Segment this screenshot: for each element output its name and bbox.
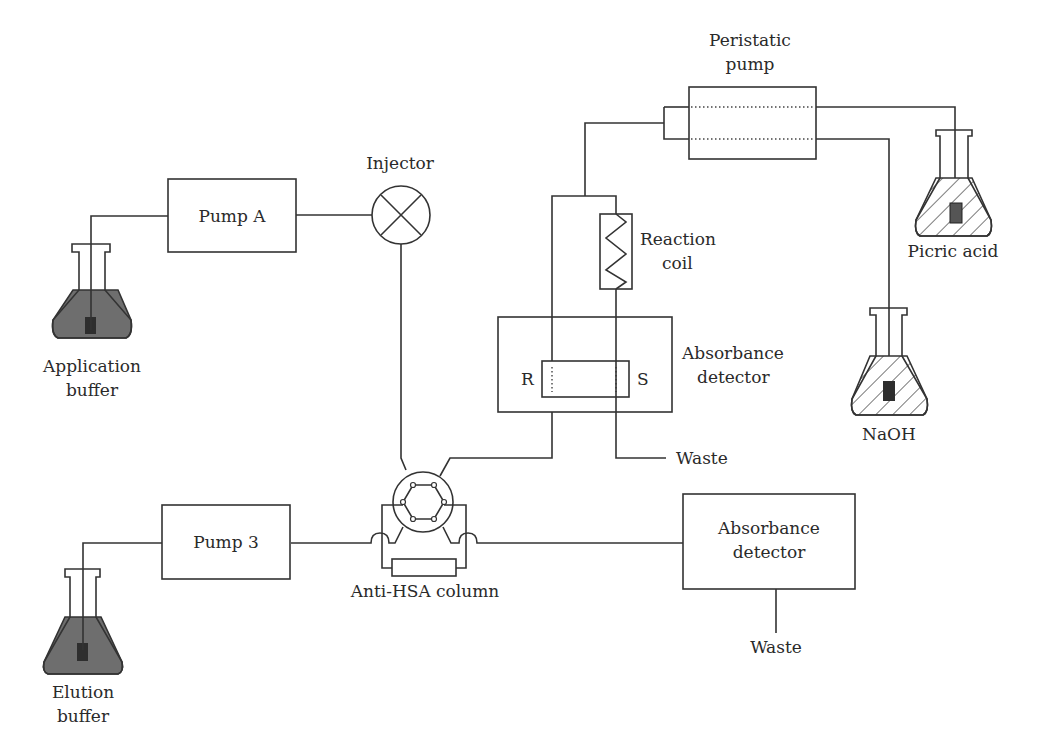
absorbance-detector-1-label-2: detector bbox=[697, 367, 770, 387]
naoh-label: NaOH bbox=[862, 424, 916, 444]
tube-injector-valve bbox=[401, 244, 406, 470]
application-buffer-label: Application bbox=[42, 356, 141, 376]
picric-acid-flask bbox=[916, 130, 992, 236]
absorbance-detector-2-label: Absorbance bbox=[717, 518, 820, 538]
picric-acid-label: Picric acid bbox=[908, 241, 999, 261]
stir-bar-icon bbox=[883, 381, 895, 401]
application-buffer-flask bbox=[53, 244, 132, 338]
injector-valve-icon bbox=[372, 186, 430, 244]
application-buffer-label-2: buffer bbox=[66, 380, 119, 400]
anti-hsa-column bbox=[392, 559, 456, 576]
flow-diagram: Application buffer Pump A Injector Anti-… bbox=[0, 0, 1039, 754]
sample-cell-label: S bbox=[637, 369, 649, 389]
tube-split-manifold bbox=[585, 123, 664, 196]
tube-pump-naoh bbox=[816, 139, 889, 392]
reaction-coil-icon bbox=[600, 214, 632, 289]
peristaltic-pump-label: Peristatic bbox=[709, 30, 791, 50]
elution-buffer-label: Elution bbox=[52, 682, 114, 702]
waste-label-1: Waste bbox=[676, 448, 728, 468]
reaction-coil-label-2: coil bbox=[662, 253, 693, 273]
peristaltic-pump-label-2: pump bbox=[726, 54, 775, 74]
injector-label: Injector bbox=[366, 153, 435, 173]
tube-manifold-bottom bbox=[664, 107, 689, 139]
absorbance-detector-2-label-2: detector bbox=[733, 542, 806, 562]
six-port-valve-icon bbox=[393, 472, 453, 532]
tube-valve-detector2 bbox=[443, 527, 683, 543]
anti-hsa-column-label: Anti-HSA column bbox=[350, 581, 500, 601]
reaction-coil-label: Reaction bbox=[640, 229, 716, 249]
elution-buffer-label-2: buffer bbox=[57, 706, 110, 726]
pump-a-label: Pump A bbox=[198, 206, 266, 226]
pump-3-label: Pump 3 bbox=[193, 532, 259, 552]
tube-pump3-valve bbox=[291, 527, 403, 543]
peristaltic-pump-box bbox=[689, 87, 816, 159]
stir-bar-icon bbox=[950, 203, 962, 223]
absorbance-detector-1-label: Absorbance bbox=[681, 343, 784, 363]
ref-cell-label: R bbox=[521, 369, 535, 389]
waste-label-2: Waste bbox=[750, 637, 802, 657]
